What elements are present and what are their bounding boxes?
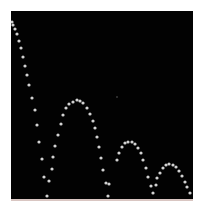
ball-image <box>64 106 67 109</box>
ball-image <box>25 73 28 76</box>
ball-image <box>117 151 120 154</box>
ball-image <box>116 96 118 98</box>
ball-image <box>30 96 33 99</box>
ball-image <box>180 174 183 177</box>
ball-image <box>177 169 180 172</box>
ball-image <box>45 194 48 197</box>
ball-image <box>161 166 164 169</box>
ball-image <box>19 46 22 49</box>
ball-image <box>61 113 64 116</box>
ball-image <box>188 191 191 194</box>
ball-image <box>107 182 110 185</box>
ball-trajectory <box>0 0 202 215</box>
ball-image <box>47 179 50 182</box>
ball-image <box>40 157 43 160</box>
ball-image <box>27 83 30 86</box>
ball-image <box>115 158 118 161</box>
ball-image <box>33 108 36 111</box>
ball-image <box>123 141 126 144</box>
ball-image <box>15 32 18 35</box>
ball-image <box>136 146 139 149</box>
ball-image <box>151 191 154 194</box>
ball-image <box>67 102 70 105</box>
ball-image <box>141 158 144 161</box>
ball-image <box>133 142 136 145</box>
ball-image <box>167 162 170 165</box>
photo-caption <box>14 204 190 212</box>
ball-image <box>53 144 56 147</box>
ball-image <box>146 175 149 178</box>
ball-image <box>104 181 107 184</box>
ball-image <box>56 133 59 136</box>
ball-image <box>99 156 102 159</box>
ball-image <box>17 39 20 42</box>
ball-image <box>106 194 109 197</box>
ball-image <box>23 64 26 67</box>
ball-image <box>155 176 158 179</box>
ball-image <box>171 163 174 166</box>
ball-image <box>11 23 14 26</box>
ball-image <box>97 145 100 148</box>
ball-image <box>101 168 104 171</box>
ball-image <box>85 106 88 109</box>
ball-image <box>174 165 177 168</box>
ball-image <box>10 20 13 23</box>
ball-image <box>185 185 188 188</box>
ball-image <box>183 180 186 183</box>
ball-image <box>91 119 94 122</box>
ball-image <box>50 167 53 170</box>
ball-image <box>51 155 54 158</box>
ball-image <box>120 145 123 148</box>
ball-image <box>95 135 98 138</box>
ball-image <box>130 140 133 143</box>
ball-image <box>81 101 84 104</box>
ball-image <box>42 175 45 178</box>
ball-image <box>71 100 74 103</box>
ball-image <box>21 55 24 58</box>
ball-image <box>126 140 129 143</box>
ball-image <box>35 123 38 126</box>
ball-image <box>144 166 147 169</box>
ball-image <box>78 99 81 102</box>
ball-image <box>154 183 157 186</box>
ball-image <box>158 171 161 174</box>
ball-image <box>139 151 142 154</box>
ball-image <box>37 140 40 143</box>
ball-image <box>164 163 167 166</box>
ball-image <box>59 122 62 125</box>
ball-image <box>88 112 91 115</box>
ball-image <box>93 126 96 129</box>
ball-image <box>75 98 78 101</box>
ball-image <box>13 27 16 30</box>
ball-image <box>149 184 152 187</box>
